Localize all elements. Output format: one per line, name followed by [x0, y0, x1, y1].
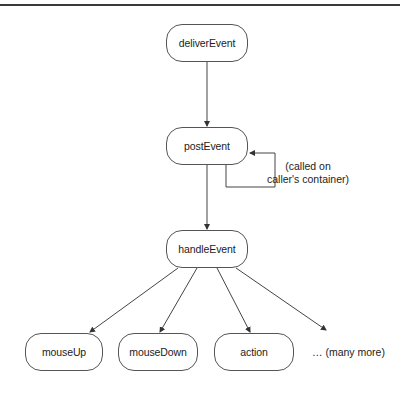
node-label: mouseDown — [129, 346, 186, 358]
node-handle-event: handleEvent — [166, 230, 248, 268]
node-label: mouseUp — [42, 346, 86, 358]
node-label: handleEvent — [178, 243, 235, 255]
edge-handle-more — [236, 268, 326, 330]
edge-handle-action — [217, 268, 250, 332]
node-label: postEvent — [184, 140, 230, 152]
node-label: action — [240, 346, 267, 358]
node-mouse-up: mouseUp — [25, 333, 103, 371]
node-label: deliverEvent — [179, 37, 236, 49]
annotation-line-1: (called on — [255, 160, 361, 173]
self-loop-annotation: (called on caller's container) — [255, 160, 361, 186]
annotation-line-2: caller's container) — [255, 173, 361, 186]
node-post-event: postEvent — [166, 127, 248, 165]
node-mouse-down: mouseDown — [118, 333, 198, 371]
node-action: action — [214, 333, 294, 371]
node-deliver-event: deliverEvent — [166, 24, 248, 62]
many-more-text: … (many more) — [312, 346, 385, 358]
many-more-label: … (many more) — [312, 346, 392, 359]
edge-handle-mouseup — [90, 268, 178, 332]
